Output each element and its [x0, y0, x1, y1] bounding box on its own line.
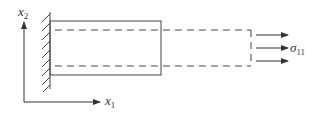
beam-original — [50, 21, 161, 75]
coordinate-axes — [24, 22, 100, 102]
beam-deformed — [55, 30, 251, 66]
stress-arrows — [256, 35, 288, 61]
x1-axis-label: x1 — [104, 93, 115, 110]
stress-label: σ11 — [290, 40, 305, 57]
cantilever-diagram: σ11 x2 x1 — [0, 0, 317, 115]
fixed-wall — [42, 12, 50, 92]
x2-axis-label: x2 — [17, 4, 28, 21]
